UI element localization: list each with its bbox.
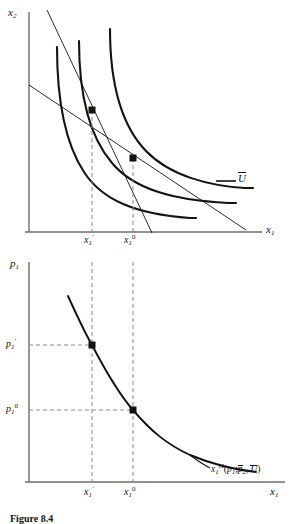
bottom-ytick-p1-zero: p10 (6, 403, 18, 416)
bottom-ytick-p1-prime: p1' (6, 338, 16, 351)
bottom-y-axis-label: p1 (10, 258, 19, 271)
budget-line-steep (47, 10, 152, 233)
point-x1-zero (130, 155, 137, 162)
indifference-curve-low (57, 47, 196, 218)
demand-point-zero (130, 407, 137, 414)
figure-caption: Figure 8.4 (10, 513, 53, 524)
bottom-xtick-x1-zero: x10 (124, 486, 135, 499)
top-x-axis-label: x1 (266, 224, 274, 237)
hicksian-demand-curve (68, 296, 256, 472)
hicksian-demand-function-label: x1H(p1;p2,U) (211, 463, 261, 476)
top-xtick-x1-prime: x1' (84, 234, 93, 247)
indifference-curve-ubar-label: U (238, 173, 246, 184)
demand-point-prime (89, 342, 96, 349)
bottom-x-axis-label: x1 (270, 486, 278, 499)
indifference-curve-Ubar (79, 41, 236, 203)
indifference-curve-high (110, 29, 253, 188)
point-x1-prime (89, 107, 96, 114)
top-y-axis-label: x2 (8, 7, 16, 20)
top-xtick-x1-zero: x10 (124, 234, 135, 247)
bottom-xtick-x1-prime: x1' (84, 486, 93, 499)
